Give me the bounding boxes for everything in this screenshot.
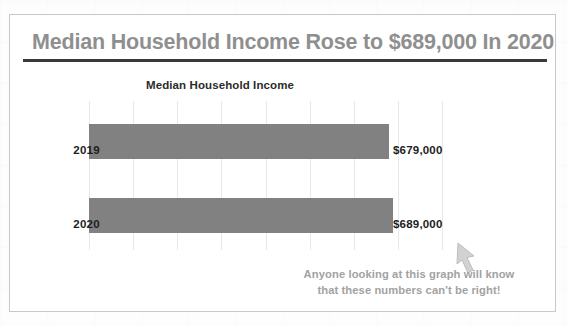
category-label-2019: 2019 [40, 144, 100, 156]
chart-title: Median Household Income [10, 79, 430, 91]
annotation-text: Anyone looking at this graph will know t… [278, 266, 540, 298]
annotation-line-1: Anyone looking at this graph will know [278, 266, 540, 282]
annotation-line-2: that these numbers can't be right! [278, 282, 540, 298]
chart-plot-area [89, 101, 442, 250]
value-label-2020: $689,000 [393, 218, 443, 230]
bar-2020 [89, 198, 393, 233]
slide-page: Median Household Income Rose to $689,000… [0, 0, 568, 326]
title-divider [23, 59, 547, 62]
value-label-2019: $679,000 [393, 144, 443, 156]
page-title: Median Household Income Rose to $689,000… [32, 30, 542, 55]
category-label-2020: 2020 [40, 218, 100, 230]
bar-2019 [89, 124, 389, 159]
slide-frame: Median Household Income Rose to $689,000… [9, 14, 556, 312]
